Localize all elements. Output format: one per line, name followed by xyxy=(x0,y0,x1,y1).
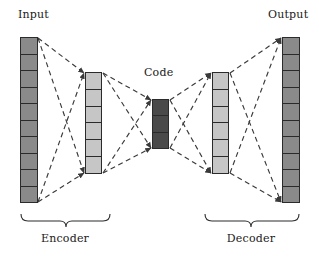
layer-cell xyxy=(213,140,228,157)
layer-cell xyxy=(283,38,299,55)
layer-cell xyxy=(86,107,101,124)
layer-cell xyxy=(21,154,37,171)
layer-code xyxy=(152,99,169,149)
layer-cell xyxy=(21,121,37,138)
encoder-brace-path xyxy=(21,214,110,227)
layer-cell xyxy=(153,133,168,148)
encoder-label: Encoder xyxy=(35,232,95,245)
wire-input-bottom-to-hidden-top xyxy=(38,73,84,202)
layer-cell xyxy=(283,137,299,154)
layer-cell xyxy=(21,71,37,88)
layer-cell xyxy=(86,73,101,90)
layer-cell xyxy=(86,157,101,173)
wire-code-bottom-to-dhidden-bottom xyxy=(170,148,211,173)
layer-encoder-hidden xyxy=(85,72,102,174)
layer-cell xyxy=(21,170,37,187)
wire-input-bottom-to-hidden-bottom xyxy=(38,173,84,202)
wire-code-top-to-dhidden-bottom xyxy=(170,100,211,173)
layer-cell xyxy=(86,90,101,107)
decoder-label: Decoder xyxy=(221,232,281,245)
layer-input xyxy=(20,37,38,203)
layer-cell xyxy=(213,107,228,124)
layer-cell xyxy=(283,104,299,121)
layer-cell xyxy=(283,187,299,203)
layer-cell xyxy=(213,73,228,90)
layer-cell xyxy=(21,88,37,105)
layer-cell xyxy=(21,38,37,55)
layer-cell xyxy=(283,170,299,187)
input-label: Input xyxy=(18,8,49,21)
layer-cell xyxy=(21,55,37,72)
layer-cell xyxy=(153,100,168,116)
layer-cell xyxy=(21,137,37,154)
wire-input-top-to-hidden-top xyxy=(38,38,84,73)
layer-cell xyxy=(213,157,228,173)
wire-input-top-to-hidden-bottom xyxy=(38,38,84,173)
layer-cell xyxy=(283,88,299,105)
layer-cell xyxy=(283,154,299,171)
layer-cell xyxy=(21,187,37,203)
wire-hidden-top-to-code-bottom xyxy=(103,73,151,148)
layer-cell xyxy=(283,55,299,72)
layer-cell xyxy=(86,140,101,157)
wire-hidden-bottom-to-code-top xyxy=(103,100,151,173)
layer-cell xyxy=(213,123,228,140)
wire-dhidden-top-to-output-top xyxy=(230,38,281,73)
layer-cell xyxy=(283,71,299,88)
wire-dhidden-top-to-output-bottom xyxy=(230,73,281,202)
wire-hidden-bottom-to-code-bottom xyxy=(103,148,151,173)
layer-decoder-hidden xyxy=(212,72,229,174)
layer-cell xyxy=(21,104,37,121)
wire-dhidden-bottom-to-output-top xyxy=(230,38,281,173)
layer-cell xyxy=(283,121,299,138)
layer-cell xyxy=(86,123,101,140)
layer-cell xyxy=(213,90,228,107)
layer-cell xyxy=(153,116,168,132)
code-label: Code xyxy=(144,66,173,79)
output-label: Output xyxy=(268,8,308,21)
layer-output xyxy=(282,37,300,203)
wire-code-top-to-dhidden-top xyxy=(170,73,211,100)
wire-code-bottom-to-dhidden-top xyxy=(170,73,211,148)
wire-dhidden-bottom-to-output-bottom xyxy=(230,173,281,202)
decoder-brace-path xyxy=(205,214,299,227)
autoencoder-diagram: Input Output Code Encoder Decoder xyxy=(0,0,319,268)
